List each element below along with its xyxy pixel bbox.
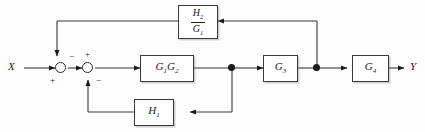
summing-junction-2[interactable] xyxy=(82,62,93,73)
takeoff-point-outer xyxy=(313,64,320,71)
block-g3[interactable]: G3 xyxy=(263,55,298,82)
takeoff-point-inner xyxy=(228,64,235,71)
fraction-denominator: G1 xyxy=(191,22,205,37)
fraction-numerator: H2 xyxy=(191,8,205,22)
block-g4[interactable]: G4 xyxy=(352,55,389,82)
sum1-sign-input: + xyxy=(50,76,55,85)
summing-junction-1[interactable] xyxy=(55,62,66,73)
sum2-sign-feedback: − xyxy=(96,76,101,85)
block-h1[interactable]: H1 xyxy=(134,99,174,126)
block-h1-label: H1 xyxy=(148,105,159,119)
block-h2-over-g1-fraction: H2 G1 xyxy=(191,8,205,36)
block-g3-label: G3 xyxy=(275,61,286,75)
output-label: Y xyxy=(410,61,416,72)
block-h2-over-g1[interactable]: H2 G1 xyxy=(178,5,218,39)
sum2-sign-forward: + xyxy=(85,50,90,59)
sum1-sign-feedback: − xyxy=(69,52,74,61)
input-label: X xyxy=(8,61,15,72)
block-g4-label: G4 xyxy=(365,61,376,75)
block-g1g2-label: G1G2 xyxy=(156,61,179,75)
block-diagram-canvas: X Y + − + − G1G2 G3 G4 H1 H2 G1 xyxy=(0,0,425,132)
block-g1g2[interactable]: G1G2 xyxy=(140,55,194,82)
